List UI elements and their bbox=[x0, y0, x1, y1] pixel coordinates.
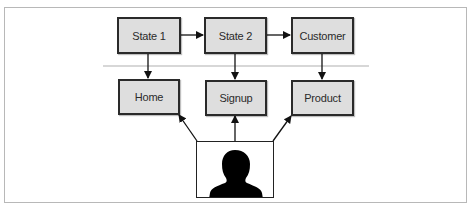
person-silhouette-icon bbox=[197, 142, 274, 198]
node-label: State 1 bbox=[132, 30, 165, 42]
node-label: Customer bbox=[299, 30, 345, 42]
arrow-user-product bbox=[273, 116, 291, 141]
node-label: Product bbox=[304, 92, 341, 104]
node-label: State 2 bbox=[219, 30, 252, 42]
node-home: Home bbox=[118, 79, 180, 115]
node-signup: Signup bbox=[205, 80, 267, 116]
node-state-2: State 2 bbox=[204, 17, 267, 54]
arrow-user-home bbox=[179, 115, 197, 141]
node-product: Product bbox=[291, 80, 354, 116]
node-label: Signup bbox=[219, 92, 252, 104]
node-customer: Customer bbox=[291, 17, 354, 54]
user-node bbox=[196, 141, 274, 198]
node-state-1: State 1 bbox=[117, 17, 181, 54]
node-label: Home bbox=[135, 91, 164, 103]
